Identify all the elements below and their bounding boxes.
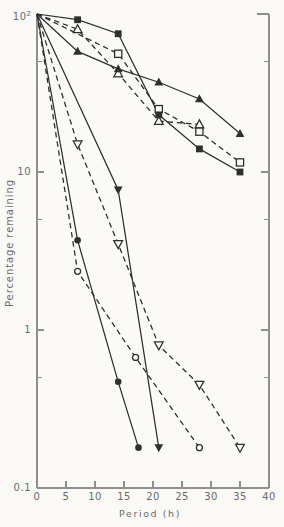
y-tick-label: 102 — [0, 8, 31, 23]
circle-filled-marker — [135, 444, 142, 451]
x-tick-label: 20 — [141, 491, 165, 503]
plot-canvas — [0, 0, 284, 527]
square-open-marker — [115, 50, 122, 57]
log-decay-chart: 1021010.1 0510152025303540 Percentage re… — [0, 0, 284, 527]
x-tick-label: 40 — [257, 491, 281, 503]
y-axis-title: Percentage remaining — [4, 179, 15, 307]
x-tick-label: 10 — [83, 491, 107, 503]
x-tick-label: 5 — [54, 491, 78, 503]
series-filled-circle-solid-markers — [74, 237, 142, 451]
axes — [37, 14, 269, 488]
square-filled-marker — [237, 169, 244, 176]
x-tick-label: 0 — [25, 491, 49, 503]
triangle-down-filled-marker — [114, 187, 123, 195]
circle-open-marker — [196, 445, 202, 451]
square-filled-marker — [196, 146, 203, 153]
y-tick-label: 1 — [0, 324, 31, 336]
square-open-marker — [196, 128, 203, 135]
triangle-down-open-marker — [73, 141, 82, 149]
series-filled-square-solid-markers — [74, 16, 243, 175]
triangle-down-filled-marker — [154, 444, 163, 452]
series-markers — [73, 16, 244, 452]
x-tick-label: 35 — [228, 491, 252, 503]
y-tick-label: 10 — [0, 166, 31, 178]
triangle-up-filled-marker — [114, 64, 123, 72]
x-tick-label: 15 — [112, 491, 136, 503]
series-open-inverted-triangle-dashed-markers — [73, 141, 244, 452]
series-open-square-dashed-markers — [115, 50, 244, 166]
x-axis-title: Period (h) — [119, 508, 181, 519]
square-filled-marker — [74, 16, 81, 23]
triangle-down-open-marker — [195, 381, 204, 389]
square-filled-marker — [115, 30, 122, 37]
circle-open-marker — [75, 268, 81, 274]
circle-filled-marker — [115, 379, 122, 386]
series-filled-square-solid-line — [37, 14, 240, 172]
square-open-marker — [236, 159, 243, 166]
series-open-triangle-dashed-markers — [73, 25, 204, 128]
x-tick-label: 25 — [170, 491, 194, 503]
series-open-square-dashed-line — [37, 14, 240, 162]
triangle-down-open-marker — [154, 342, 163, 350]
triangle-down-open-marker — [114, 241, 123, 249]
series-lines — [37, 14, 240, 448]
triangle-down-open-marker — [236, 444, 245, 452]
circle-open-marker — [133, 354, 139, 360]
x-tick-label: 30 — [199, 491, 223, 503]
circle-filled-marker — [74, 237, 81, 244]
square-filled-marker — [155, 111, 162, 118]
